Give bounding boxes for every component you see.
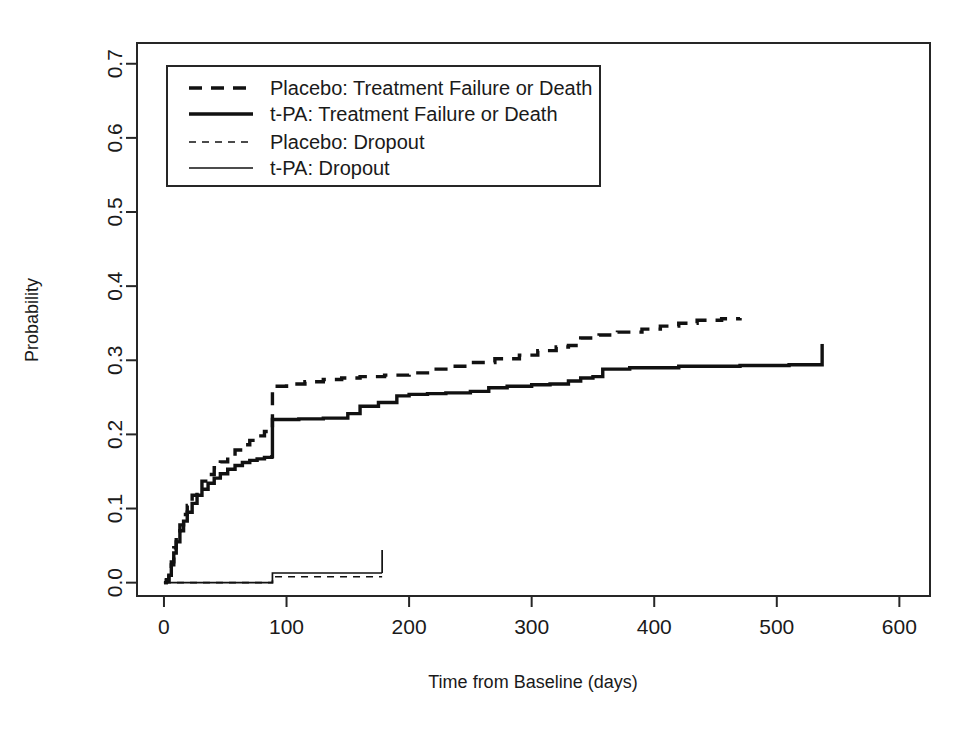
y-tick-label: 0.4 bbox=[103, 271, 126, 301]
series-line-3 bbox=[164, 573, 382, 583]
x-tick-label: 200 bbox=[392, 615, 427, 638]
y-tick-label: 0.6 bbox=[103, 123, 126, 152]
x-tick-label: 0 bbox=[158, 615, 170, 638]
legend-label-1: t-PA: Treatment Failure or Death bbox=[270, 103, 558, 125]
y-tick-label: 0.3 bbox=[103, 346, 126, 375]
y-tick-label: 0.0 bbox=[103, 568, 126, 597]
x-tick-label: 300 bbox=[514, 615, 549, 638]
y-tick-label: 0.5 bbox=[103, 197, 126, 226]
x-axis-title: Time from Baseline (days) bbox=[428, 672, 637, 692]
y-tick-label: 0.7 bbox=[103, 49, 126, 78]
legend-label-0: Placebo: Treatment Failure or Death bbox=[270, 77, 592, 99]
y-tick-label: 0.1 bbox=[103, 494, 126, 523]
survival-curve-chart: 01002003004005006000.00.10.20.30.40.50.6… bbox=[0, 0, 961, 743]
y-axis-title: Probability bbox=[22, 278, 42, 362]
legend: Placebo: Treatment Failure or Deatht-PA:… bbox=[167, 66, 600, 186]
x-tick-label: 500 bbox=[759, 615, 794, 638]
x-tick-label: 400 bbox=[637, 615, 672, 638]
legend-label-2: Placebo: Dropout bbox=[270, 131, 425, 153]
figure-canvas: 01002003004005006000.00.10.20.30.40.50.6… bbox=[0, 0, 961, 743]
x-tick-label: 600 bbox=[882, 615, 917, 638]
legend-label-3: t-PA: Dropout bbox=[270, 157, 390, 179]
y-tick-label: 0.2 bbox=[103, 420, 126, 449]
series-line-0 bbox=[164, 318, 740, 583]
x-tick-label: 100 bbox=[269, 615, 304, 638]
curves-layer bbox=[164, 318, 822, 583]
series-line-1 bbox=[164, 364, 822, 583]
